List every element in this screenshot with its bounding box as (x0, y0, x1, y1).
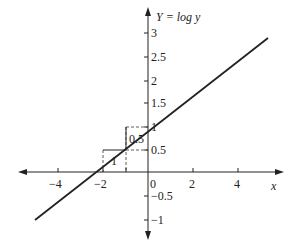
y-tick-label: −1 (151, 214, 164, 226)
y-tick-label: 1.5 (151, 97, 166, 109)
y-tick-label: 3 (151, 27, 157, 39)
y-ticks (144, 33, 148, 220)
x-tick-label: 4 (234, 178, 240, 190)
y-tick-label: 1 (151, 121, 157, 133)
x-tick-label: 2 (189, 178, 195, 190)
x-tick-label: −2 (94, 178, 107, 190)
y-tick-label: −0.5 (151, 190, 173, 202)
y-axis-label: Y = log y (156, 11, 200, 23)
y-tick-label: 2 (151, 75, 157, 87)
y-tick-label: 0.5 (151, 144, 166, 156)
chart-canvas (0, 0, 291, 244)
x-tick-label: −4 (49, 178, 62, 190)
y-axis-down-arrow-icon (145, 231, 151, 240)
y-tick-label: 2.5 (151, 51, 166, 63)
rise-label: 0.5 (129, 133, 144, 145)
x-axis-right-arrow-icon (275, 169, 284, 175)
x-axis-label: x (271, 180, 276, 192)
run-label: 1 (111, 155, 117, 167)
y-axis-up-arrow-icon (145, 7, 151, 16)
x-axis-left-arrow-icon (18, 169, 27, 175)
slope-triangle (103, 127, 126, 150)
